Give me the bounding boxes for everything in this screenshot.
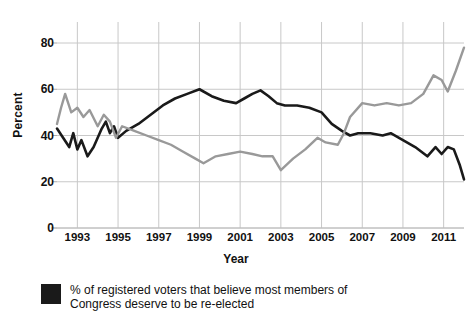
y-tick-80: 80 — [24, 36, 54, 50]
y-tick-40: 40 — [24, 129, 54, 143]
gridlines — [57, 22, 464, 228]
legend-label: % of registered voters that believe most… — [70, 283, 400, 311]
y-tick-0: 0 — [24, 221, 54, 235]
legend-swatch-black — [41, 284, 61, 304]
chart-container: Percent Year 806040200 19931995199719992… — [0, 0, 472, 333]
x-tick-2009: 2009 — [390, 231, 416, 243]
x-tick-1997: 1997 — [146, 231, 172, 243]
x-tick-2001: 2001 — [227, 231, 253, 243]
x-tick-2011: 2011 — [431, 231, 456, 243]
y-tick-60: 60 — [24, 82, 54, 96]
x-tick-2005: 2005 — [309, 231, 335, 243]
y-tick-20: 20 — [24, 175, 54, 189]
x-tick-2007: 2007 — [349, 231, 375, 243]
x-tick-1999: 1999 — [187, 231, 213, 243]
x-tick-1995: 1995 — [105, 231, 131, 243]
x-axis-title: Year — [0, 252, 472, 266]
x-tick-1993: 1993 — [65, 231, 91, 243]
legend: % of registered voters that believe most… — [41, 283, 461, 311]
x-tick-2003: 2003 — [268, 231, 294, 243]
